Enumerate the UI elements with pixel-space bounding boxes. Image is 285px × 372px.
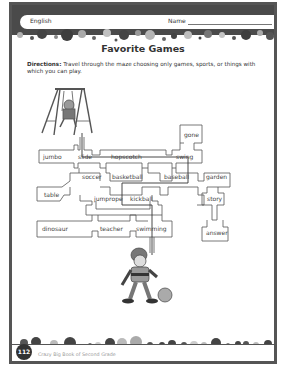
maze-word-swing: swing <box>176 153 194 161</box>
maze-word-swimming: swimming <box>136 225 167 233</box>
maze-word-slide: slide <box>78 153 92 160</box>
worksheet-page: English Name <box>9 2 277 364</box>
maze-word-teacher: teacher <box>100 225 124 232</box>
maze-word-gone: gone <box>184 131 199 139</box>
maze-word-table: table <box>44 191 60 198</box>
maze-word-story: story <box>207 195 223 203</box>
footer-band: Crazy Big Book of Second Grade <box>12 344 274 361</box>
maze-word-hopscotch: hopscotch <box>111 153 142 161</box>
boy-kicking-ball-icon <box>122 248 172 304</box>
maze-word-answer: answer <box>206 229 228 236</box>
swing-set-icon <box>42 89 92 135</box>
worksheet-inner: English Name <box>12 5 274 361</box>
maze-word-garden: garden <box>206 173 227 181</box>
page-number-badge: 112 <box>16 344 32 360</box>
maze-word-jumprope: jumprope <box>93 195 123 203</box>
word-maze: jumbo slide hopscotch gone swing table s… <box>12 5 274 361</box>
maze-word-jumbo: jumbo <box>42 153 62 161</box>
maze-word-kickball: kickball <box>130 195 153 202</box>
maze-word-soccer: soccer <box>82 173 102 180</box>
maze-word-dinosaur: dinosaur <box>42 225 69 232</box>
book-title: Crazy Big Book of Second Grade <box>38 352 116 357</box>
maze-word-baseball: baseball <box>164 173 189 180</box>
maze-word-basketball: basketball <box>112 173 143 180</box>
